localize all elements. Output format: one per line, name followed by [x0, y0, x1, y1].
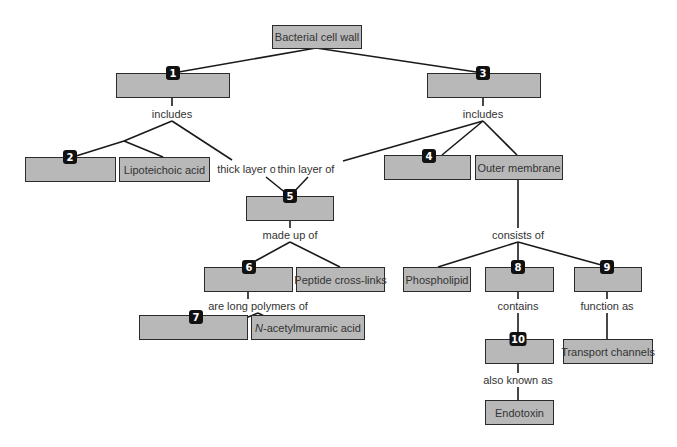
link-label-also-known-as: also known as	[481, 374, 555, 386]
node-phospholipid: Phospholipid	[403, 267, 471, 292]
link-label-includes-right: includes	[461, 108, 505, 120]
link-label-consists-of: consists of	[490, 229, 546, 241]
node-label: Endotoxin	[495, 407, 544, 419]
node-transport-channels: Transport channels	[563, 339, 653, 364]
number-badge-10: 10	[510, 332, 527, 346]
number-badge-8: 8	[511, 260, 525, 274]
node-label: Outer membrane	[477, 162, 560, 174]
number-badge-5: 5	[283, 189, 297, 203]
number-badge-9: 9	[600, 260, 614, 274]
link-label-includes-left: includes	[150, 108, 194, 120]
concept-map: Bacterial cell wall 1 3 includes include…	[0, 0, 677, 447]
node-label: Lipoteichoic acid	[124, 164, 205, 176]
node-label: Transport channels	[561, 346, 655, 358]
node-peptide-cross-links: Peptide cross-links	[296, 267, 385, 292]
node-lipoteichoic-acid: Lipoteichoic acid	[119, 157, 210, 182]
connector-lines	[0, 0, 677, 447]
node-label: Peptide cross-links	[294, 274, 386, 286]
link-label-thick-layer: thick layer of	[215, 163, 281, 175]
link-label-made-up-of: made up of	[260, 229, 319, 241]
number-badge-1: 1	[166, 66, 180, 80]
number-badge-6: 6	[242, 260, 256, 274]
node-n-acetylmuramic-acid: N-acetylmuramic acid	[251, 315, 365, 340]
link-label-long-polymers: are long polymers of	[206, 300, 310, 312]
link-label-thin-layer: thin layer of	[276, 163, 337, 175]
link-label-function-as: function as	[578, 300, 635, 312]
number-badge-2: 2	[63, 150, 77, 164]
node-bacterial-cell-wall: Bacterial cell wall	[272, 25, 362, 49]
number-badge-3: 3	[476, 66, 490, 80]
link-label-contains: contains	[496, 300, 541, 312]
node-label: Phospholipid	[406, 274, 469, 286]
node-outer-membrane: Outer membrane	[475, 155, 563, 180]
number-badge-7: 7	[189, 310, 203, 324]
node-label-italic-prefix: N	[255, 322, 263, 334]
node-label: -acetylmuramic acid	[263, 322, 361, 334]
number-badge-4: 4	[422, 149, 436, 163]
node-endotoxin: Endotoxin	[485, 400, 554, 425]
node-label: Bacterial cell wall	[275, 31, 359, 43]
